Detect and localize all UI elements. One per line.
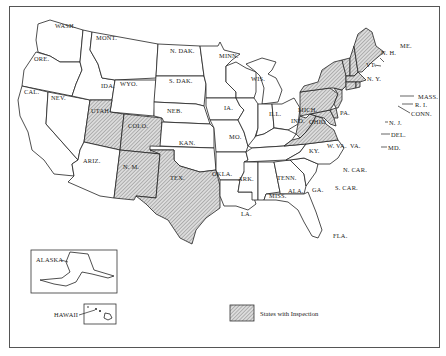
label-nev: NEV. <box>51 94 66 101</box>
label-va: VA. <box>350 142 361 149</box>
label-ri: R. I. <box>415 101 427 108</box>
label-ky: KY. <box>309 147 320 154</box>
state-hawaii <box>104 313 112 320</box>
label-wash: WASH. <box>55 22 76 29</box>
label-me: ME. <box>400 42 412 49</box>
label-ore: ORE. <box>34 55 49 62</box>
label-nh: N. H. <box>381 49 396 56</box>
label-utah: UTAH <box>91 107 109 114</box>
label-miss: MISS. <box>269 192 287 199</box>
label-ga: GA. <box>312 186 324 193</box>
label-vt: VT. <box>366 61 376 68</box>
label-cal: CAL. <box>24 88 39 95</box>
label-del: DEL. <box>391 131 406 138</box>
hawaii-inset <box>84 304 116 324</box>
label-mass: MASS. <box>418 93 438 100</box>
label-md: MD. <box>388 144 401 151</box>
label-scar: S. CAR. <box>335 184 358 191</box>
label-minn: MINN. <box>219 52 239 59</box>
state-rhode-island <box>356 82 360 88</box>
label-okla: OKLA. <box>212 170 233 177</box>
label-colo: COLO. <box>128 122 148 129</box>
label-alaska: ALASKA <box>36 256 63 263</box>
label-wva: W. VA. <box>327 142 347 149</box>
label-nm: N. M. <box>123 163 139 170</box>
state-connecticut <box>346 82 356 90</box>
label-ala: ALA. <box>288 187 304 194</box>
label-ndak: N. DAK. <box>170 47 195 54</box>
label-tenn: TENN. <box>277 174 297 181</box>
label-neb: NEB. <box>167 107 182 114</box>
label-kan: KAN. <box>179 139 195 146</box>
legend-swatch <box>230 305 254 321</box>
label-ncar: N. CAR. <box>343 166 367 173</box>
label-wis: WIS. <box>251 75 265 82</box>
label-la: LA. <box>241 210 252 217</box>
label-wyo: WYO. <box>120 80 138 87</box>
label-nj: N. J. <box>389 119 402 126</box>
label-ariz: ARIZ. <box>83 157 101 164</box>
state-new-mexico <box>114 150 160 200</box>
label-mo: MO. <box>229 133 242 140</box>
legend-label: States with Inspection <box>260 310 319 317</box>
label-ida: IDA. <box>101 82 115 89</box>
label-ohio: OHIO <box>309 118 326 125</box>
label-pa: PA. <box>340 109 350 116</box>
label-tex: TEX. <box>170 174 185 181</box>
label-conn: CONN. <box>411 110 432 117</box>
label-sdak: S. DAK. <box>169 77 193 84</box>
label-hawaii: HAWAII <box>54 311 78 318</box>
label-mich: MICH. <box>298 106 317 113</box>
label-mont: MONT. <box>96 34 117 41</box>
label-ny: N. Y. <box>367 75 381 82</box>
state-new-york <box>300 60 346 92</box>
label-ia: IA. <box>224 104 233 111</box>
label-ill: ILL. <box>269 110 282 117</box>
label-ind: IND. <box>291 117 305 124</box>
us-inspection-map: ALASKA HAWAII States with Inspection WAS… <box>0 0 446 356</box>
label-fla: FLA. <box>333 232 348 239</box>
label-ark: ARK. <box>238 175 254 182</box>
